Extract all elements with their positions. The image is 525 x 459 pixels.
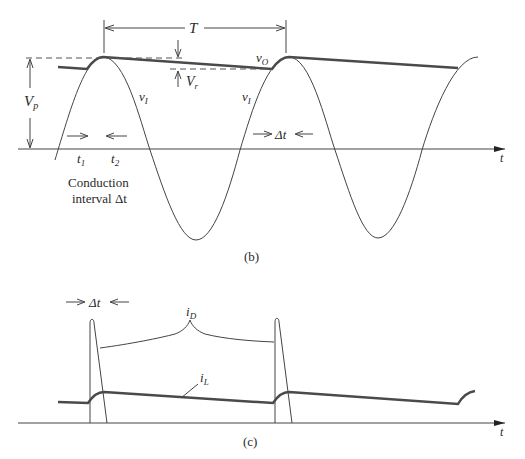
figure-c: t iD iL Δt (c)	[18, 295, 505, 449]
caption-b: (b)	[244, 249, 259, 264]
axis-label-t-b: t	[500, 151, 504, 165]
load-current-il	[58, 391, 475, 404]
vp-label: Vp	[24, 93, 38, 111]
diode-current-pulse-1	[90, 319, 107, 423]
rectifier-waveform-diagram: t Vp T Vr vO	[0, 0, 525, 459]
caption-c: (c)	[243, 434, 257, 449]
conduction-interval-line1: Conduction	[68, 175, 129, 190]
delta-t-label-b: Δt	[274, 127, 287, 142]
axis-label-t-c: t	[500, 425, 504, 439]
vo-label: vO	[256, 50, 269, 67]
diode-current-brace	[100, 320, 274, 348]
vi-label-1: vI	[139, 89, 149, 106]
figure-b: t Vp T Vr vO	[18, 20, 505, 264]
conduction-interval-line2: interval Δt	[72, 191, 127, 206]
t2-label: t2	[111, 151, 120, 168]
id-label: iD	[186, 304, 197, 321]
il-label: iL	[200, 370, 209, 387]
delta-t-label-c: Δt	[88, 295, 101, 310]
diode-current-pulse-2	[275, 318, 292, 423]
period-label: T	[189, 20, 199, 36]
vr-label: Vr	[186, 74, 199, 91]
vi-label-2: vI	[242, 89, 252, 106]
il-leader-line	[181, 384, 198, 398]
t1-label: t1	[77, 151, 85, 168]
